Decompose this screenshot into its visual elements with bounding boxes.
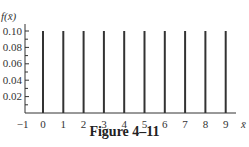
axes: [25, 24, 236, 113]
y-axis-label: f(x̄): [1, 10, 17, 23]
figure-caption: Figure 4–11: [0, 124, 249, 140]
y-tick-label: 0.06: [3, 57, 23, 69]
y-tick-label: 0.04: [3, 74, 23, 86]
y-tick-label: 0.02: [3, 90, 22, 102]
bars: [43, 31, 226, 113]
y-tick-label: 0.08: [3, 41, 23, 53]
y-tick-label: 0.10: [3, 25, 23, 37]
